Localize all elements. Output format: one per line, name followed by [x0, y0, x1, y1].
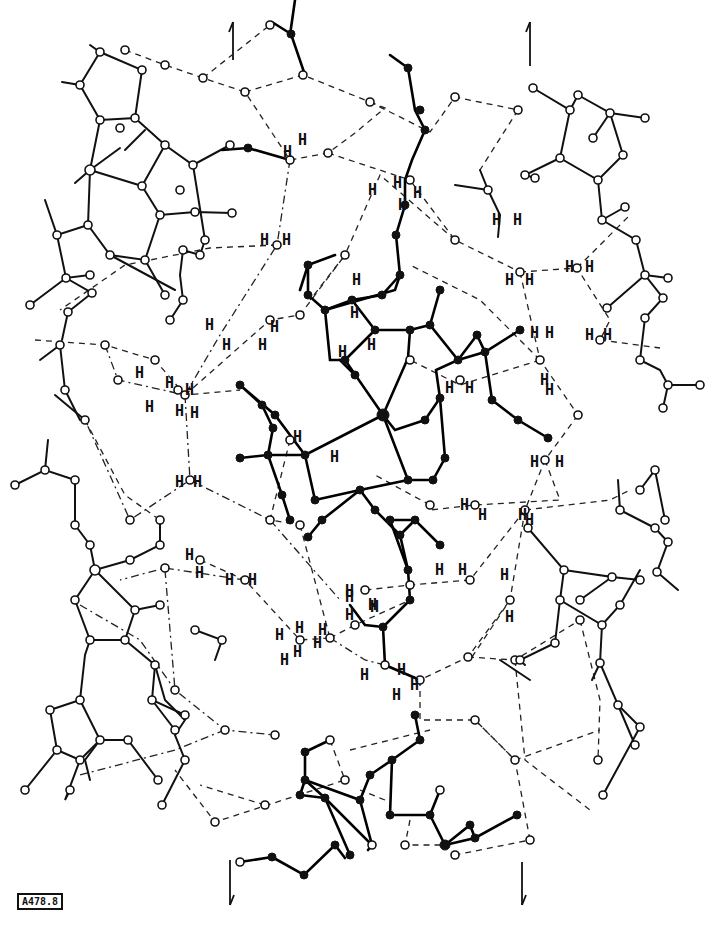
svg-text:H: H — [370, 598, 379, 616]
molecular-packing-diagram: HH HH HH HH HH HH HH HH HH HH HH HH HH H… — [0, 0, 716, 930]
svg-text:H: H — [413, 184, 422, 202]
svg-text:H: H — [270, 318, 279, 336]
svg-text:H: H — [225, 571, 234, 589]
svg-text:H: H — [345, 582, 354, 600]
svg-text:H: H — [350, 304, 359, 322]
svg-text:H: H — [368, 181, 377, 199]
svg-text:H: H — [195, 564, 204, 582]
svg-text:H: H — [445, 379, 454, 397]
svg-text:H: H — [518, 506, 527, 524]
svg-text:H: H — [513, 211, 522, 229]
svg-text:H: H — [260, 231, 269, 249]
svg-text:H: H — [398, 196, 407, 214]
svg-text:H: H — [185, 381, 194, 399]
figure-label: A478.8 — [17, 893, 63, 910]
svg-text:H: H — [352, 271, 361, 289]
svg-text:H: H — [585, 326, 594, 344]
svg-text:H: H — [393, 174, 402, 192]
svg-text:H: H — [435, 561, 444, 579]
svg-text:H: H — [345, 606, 354, 624]
svg-text:H: H — [295, 619, 304, 637]
svg-text:H: H — [145, 398, 154, 416]
svg-text:H: H — [460, 496, 469, 514]
svg-text:H: H — [545, 324, 554, 342]
svg-text:H: H — [458, 561, 467, 579]
svg-text:H: H — [185, 546, 194, 564]
svg-text:H: H — [293, 428, 302, 446]
svg-text:H: H — [283, 143, 292, 161]
svg-text:H: H — [222, 336, 231, 354]
svg-text:H: H — [360, 666, 369, 684]
svg-text:H: H — [258, 336, 267, 354]
svg-text:H: H — [330, 448, 339, 466]
down-arrow-left-icon — [230, 860, 234, 905]
svg-text:H: H — [505, 608, 514, 626]
svg-text:H: H — [298, 131, 307, 149]
svg-text:H: H — [248, 571, 257, 589]
svg-text:H: H — [205, 316, 214, 334]
svg-text:H: H — [280, 651, 289, 669]
svg-text:H: H — [540, 371, 549, 389]
svg-text:H: H — [190, 404, 199, 422]
svg-text:H: H — [555, 453, 564, 471]
svg-text:H: H — [275, 626, 284, 644]
svg-text:H: H — [530, 453, 539, 471]
svg-text:H: H — [565, 258, 574, 276]
svg-text:H: H — [478, 506, 487, 524]
svg-text:H: H — [318, 621, 327, 639]
svg-text:H: H — [165, 374, 174, 392]
up-arrow-right-icon — [526, 22, 530, 66]
svg-text:H: H — [530, 324, 539, 342]
svg-text:H: H — [367, 336, 376, 354]
svg-text:H: H — [397, 661, 406, 679]
svg-text:H: H — [410, 676, 419, 694]
hydrogen-bond-network — [35, 25, 660, 855]
svg-text:H: H — [282, 231, 291, 249]
hydrogen-labels: HH HH HH HH HH HH HH HH HH HH HH HH HH H… — [135, 131, 612, 704]
svg-text:H: H — [338, 343, 347, 361]
svg-text:H: H — [492, 211, 501, 229]
svg-text:H: H — [135, 364, 144, 382]
svg-text:H: H — [465, 379, 474, 397]
svg-text:H: H — [392, 686, 401, 704]
svg-text:H: H — [293, 643, 302, 661]
svg-text:H: H — [193, 473, 202, 491]
svg-text:H: H — [505, 271, 514, 289]
svg-text:H: H — [175, 402, 184, 420]
svg-text:H: H — [500, 566, 509, 584]
svg-text:H: H — [585, 258, 594, 276]
svg-text:H: H — [603, 326, 612, 344]
svg-text:H: H — [175, 473, 184, 491]
neighbour-molecules — [15, 45, 700, 805]
down-arrow-right-icon — [522, 862, 526, 905]
svg-text:H: H — [525, 271, 534, 289]
